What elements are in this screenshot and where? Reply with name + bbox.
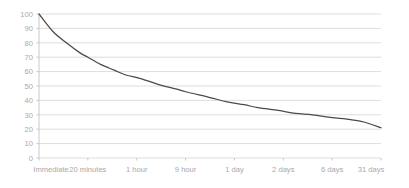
y-tick-label: 10 — [25, 139, 33, 148]
y-tick-label: 40 — [25, 96, 33, 105]
y-tick-label: 90 — [25, 24, 33, 33]
x-tick-label: 31 days — [358, 165, 385, 174]
y-tick-label: 60 — [25, 67, 33, 76]
y-tick-label: 70 — [25, 53, 33, 62]
chart-canvas: 0102030405060708090100 Immediate20 minut… — [0, 0, 409, 188]
x-tick-label: 6 days — [321, 165, 344, 174]
y-tick-label: 30 — [25, 111, 33, 120]
y-tick-label: 0 — [29, 154, 33, 163]
x-tick-label: 1 hour — [126, 165, 148, 174]
y-tick-labels-group: 0102030405060708090100 — [20, 10, 33, 163]
retention-curve — [39, 14, 381, 128]
x-tick-labels-group: Immediate20 minutes1 hour9 hour1 day2 da… — [33, 158, 384, 174]
y-axis-line-group — [37, 14, 40, 158]
x-tick-label: 9 hour — [175, 165, 197, 174]
y-tick-label: 20 — [25, 125, 33, 134]
x-tick-label: 2 days — [272, 165, 295, 174]
y-tick-label: 80 — [25, 39, 33, 48]
x-tick-label: Immediate — [33, 165, 68, 174]
y-tick-label: 100 — [20, 10, 33, 19]
x-tick-label: 1 day — [225, 165, 244, 174]
x-tick-label: 20 minutes — [69, 165, 106, 174]
forgetting-curve-chart: 0102030405060708090100 Immediate20 minut… — [0, 0, 409, 188]
gridlines-group — [39, 14, 381, 158]
data-line-group — [39, 14, 381, 128]
y-tick-label: 50 — [25, 82, 33, 91]
